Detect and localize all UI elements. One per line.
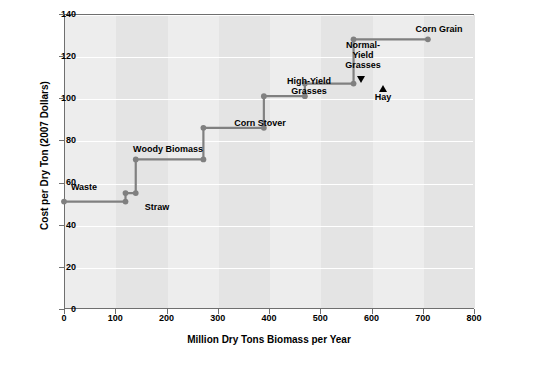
data-point-marker [261, 93, 267, 99]
annotation-normal-yield-grasses: Normal- Yield Grasses [334, 40, 392, 70]
annotation-waste: Waste [62, 182, 106, 192]
annotation-woody-biomass: Woody Biomass [122, 144, 214, 154]
biomass-supply-curve-chart: 140 120 100 80 60 40 20 0 0 100 200 300 … [0, 0, 548, 366]
annotation-high-yield-grasses: High-Yield Grasses [272, 76, 346, 96]
data-point-marker [201, 156, 207, 162]
data-point-marker [201, 125, 207, 131]
data-point-marker [425, 36, 431, 42]
data-point-marker [351, 81, 357, 87]
annotation-corn-grain: Corn Grain [408, 24, 470, 34]
data-point-marker [133, 156, 139, 162]
annotation-straw: Straw [136, 202, 178, 212]
data-point-marker [123, 190, 129, 196]
leader-arrow-down-icon [357, 76, 365, 83]
annotation-corn-stover: Corn Stover [222, 118, 298, 128]
data-point-marker [61, 199, 67, 205]
data-point-marker [123, 199, 129, 205]
annotation-hay: Hay [369, 92, 397, 102]
data-point-marker [133, 190, 139, 196]
leader-arrow-up-icon [379, 85, 387, 92]
